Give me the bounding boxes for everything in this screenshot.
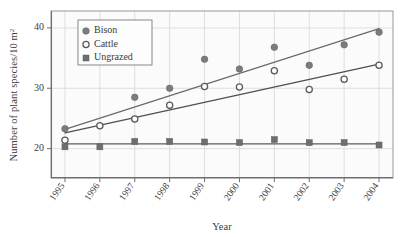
y-axis-title-text: Number of plant species/10 m bbox=[8, 32, 19, 161]
data-point-cattle-1995 bbox=[62, 137, 68, 143]
data-point-ungrazed-1998 bbox=[167, 138, 173, 144]
scatter-plot-svg: 203040 199519961997199819992000200120022… bbox=[0, 0, 409, 237]
data-point-bison-1998 bbox=[166, 85, 173, 92]
x-tick-label-2002: 2002 bbox=[292, 181, 311, 203]
chart-figure: 203040 199519961997199819992000200120022… bbox=[0, 0, 409, 237]
data-point-cattle-1996 bbox=[97, 123, 103, 129]
x-tick-label-2001: 2001 bbox=[257, 181, 276, 203]
data-point-ungrazed-1996 bbox=[97, 144, 103, 150]
data-point-ungrazed-2000 bbox=[236, 140, 242, 146]
legend-marker-ungrazed bbox=[83, 55, 89, 61]
data-point-ungrazed-2001 bbox=[271, 137, 277, 143]
data-point-bison-2002 bbox=[306, 62, 313, 69]
data-point-ungrazed-1997 bbox=[132, 138, 138, 144]
x-tick-label-1996: 1996 bbox=[82, 181, 101, 203]
data-point-cattle-2004 bbox=[376, 62, 382, 68]
data-point-ungrazed-1995 bbox=[62, 144, 68, 150]
x-tick-labels: 1995199619971998199920002001200220032004 bbox=[48, 181, 381, 203]
data-point-ungrazed-1999 bbox=[202, 139, 208, 145]
data-point-bison-2001 bbox=[271, 44, 278, 51]
y-tick-marks bbox=[47, 28, 51, 149]
data-point-bison-2003 bbox=[341, 42, 348, 49]
chart-legend: BisonCattleUngrazed bbox=[78, 20, 152, 65]
data-point-bison-2004 bbox=[376, 29, 383, 36]
data-point-bison-1995 bbox=[62, 125, 69, 132]
data-point-bison-1997 bbox=[131, 94, 138, 101]
legend-label-ungrazed: Ungrazed bbox=[94, 51, 133, 62]
data-point-bison-2000 bbox=[236, 66, 243, 73]
x-tick-label-1999: 1999 bbox=[187, 181, 206, 203]
x-tick-label-1998: 1998 bbox=[152, 181, 171, 203]
x-tick-label-2003: 2003 bbox=[327, 181, 346, 203]
data-point-ungrazed-2002 bbox=[306, 140, 312, 146]
x-tick-label-1995: 1995 bbox=[48, 181, 67, 203]
data-point-cattle-1998 bbox=[167, 102, 173, 108]
y-axis-title-superscript: 2 bbox=[7, 28, 15, 32]
data-point-ungrazed-2003 bbox=[341, 140, 347, 146]
data-point-cattle-2003 bbox=[341, 76, 347, 82]
y-tick-label-30: 30 bbox=[34, 82, 44, 93]
x-axis-title: Year bbox=[212, 221, 232, 232]
x-tick-label-1997: 1997 bbox=[117, 181, 136, 203]
legend-label-bison: Bison bbox=[94, 24, 117, 35]
data-point-cattle-1997 bbox=[132, 116, 138, 122]
data-point-bison-1999 bbox=[201, 56, 208, 63]
legend-label-cattle: Cattle bbox=[94, 38, 118, 49]
data-point-cattle-2000 bbox=[236, 84, 242, 90]
data-point-cattle-1999 bbox=[201, 83, 207, 89]
x-tick-label-2000: 2000 bbox=[222, 181, 241, 203]
y-tick-labels: 203040 bbox=[34, 21, 44, 153]
data-point-ungrazed-2004 bbox=[376, 142, 382, 148]
y-axis-title: Number of plant species/10 m2 bbox=[7, 28, 19, 161]
data-point-cattle-2002 bbox=[306, 86, 312, 92]
x-tick-label-2004: 2004 bbox=[362, 181, 381, 203]
y-tick-label-20: 20 bbox=[34, 142, 44, 153]
y-tick-label-40: 40 bbox=[34, 21, 44, 32]
legend-marker-cattle bbox=[83, 41, 89, 47]
svg-text:Number of plant species/10 m2: Number of plant species/10 m2 bbox=[7, 28, 19, 161]
data-point-cattle-2001 bbox=[271, 68, 277, 74]
legend-marker-bison bbox=[83, 28, 90, 35]
